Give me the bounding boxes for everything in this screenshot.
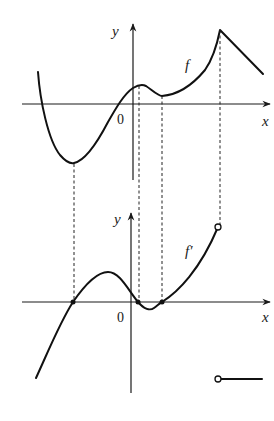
zero-point-3 xyxy=(160,300,165,305)
open-endpoint-bottom xyxy=(215,376,221,382)
f-label: f xyxy=(185,57,191,73)
top-graph: y x 0 f xyxy=(22,23,270,180)
top-y-label: y xyxy=(110,23,119,39)
top-origin-label: 0 xyxy=(117,112,124,127)
zero-point-2 xyxy=(136,300,141,305)
bottom-graph: y x 0 f′ xyxy=(22,211,270,393)
bottom-y-label: y xyxy=(112,211,121,227)
zero-point-1 xyxy=(71,300,76,305)
f-prime-label: f′ xyxy=(185,243,193,259)
top-x-label: x xyxy=(261,113,269,129)
f-curve xyxy=(38,30,263,163)
bottom-origin-label: 0 xyxy=(117,310,124,325)
function-derivative-diagram: y x 0 f y x 0 f′ xyxy=(0,0,274,421)
bottom-x-label: x xyxy=(261,309,269,325)
open-endpoint-top xyxy=(215,224,221,230)
connector-lines xyxy=(74,30,220,300)
